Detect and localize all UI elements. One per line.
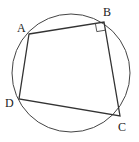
- vertex-label-b: B: [103, 5, 111, 19]
- right-angle-marker: [95, 23, 105, 31]
- quadrilateral-abcd: [19, 22, 120, 116]
- vertex-label-d: D: [5, 96, 14, 110]
- cyclic-quadrilateral-diagram: A B C D: [0, 0, 139, 142]
- vertex-label-a: A: [17, 21, 26, 35]
- vertex-label-c: C: [118, 120, 126, 134]
